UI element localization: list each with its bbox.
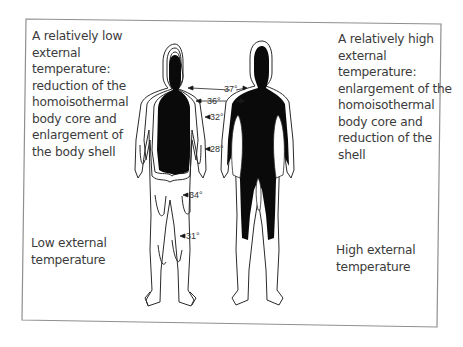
left-description-line: homoisothermal bbox=[32, 94, 128, 111]
left-description-line: external bbox=[32, 45, 128, 62]
left-label: Low external temperature bbox=[31, 235, 107, 268]
right-description-line: shell bbox=[338, 147, 452, 164]
left-description: A relatively low external temperature: r… bbox=[32, 28, 128, 160]
right-description-line: body core and bbox=[338, 114, 452, 131]
right-description-line: temperature: bbox=[338, 64, 452, 81]
left-description-line: enlargement of bbox=[32, 127, 128, 144]
right-description-line: A relatively high bbox=[338, 31, 452, 48]
left-description-line: the body shell bbox=[32, 144, 128, 161]
right-description-line: homoisothermal bbox=[338, 97, 452, 114]
diagram-frame: A relatively low external temperature: r… bbox=[0, 0, 463, 347]
left-label-line: temperature bbox=[31, 252, 107, 269]
isotherm-label-34: 34° bbox=[189, 190, 203, 200]
right-description-line: external bbox=[338, 48, 452, 65]
left-description-line: A relatively low bbox=[32, 28, 128, 45]
right-description: A relatively high external temperature: … bbox=[338, 31, 452, 163]
left-description-line: reduction of the bbox=[32, 78, 128, 95]
left-label-line: Low external bbox=[31, 235, 107, 252]
isotherm-label-37: 37° bbox=[224, 84, 238, 94]
right-description-line: enlargement of the bbox=[338, 81, 452, 98]
isotherm-label-36: 36° bbox=[207, 96, 221, 106]
right-description-line: reduction of the bbox=[338, 130, 452, 147]
isotherm-label-28: 28° bbox=[210, 144, 224, 154]
right-label-line: High external bbox=[336, 242, 415, 259]
right-label: High external temperature bbox=[336, 242, 415, 275]
left-description-line: temperature: bbox=[32, 61, 128, 78]
left-body-core bbox=[157, 55, 190, 175]
right-body-figure bbox=[221, 41, 294, 305]
isotherm-label-32: 32° bbox=[210, 112, 224, 122]
left-description-line: body core and bbox=[32, 111, 128, 128]
right-label-line: temperature bbox=[336, 259, 415, 276]
isotherm-label-31: 31° bbox=[186, 231, 200, 241]
